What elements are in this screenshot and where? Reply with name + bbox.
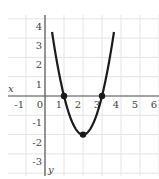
parabola-chart: -10123456 4321-1-2-3 x y [0,0,159,179]
x-tick-label: 2 [75,99,81,110]
y-tick-label: -1 [32,117,42,128]
y-tick-label: -2 [32,137,42,148]
x-tick-label: 0 [37,99,43,110]
x-tick-label: 4 [113,99,119,110]
x-tick-label: 5 [132,99,138,110]
x-axis-label: x [8,83,14,94]
x-tick-label: 1 [56,99,62,110]
y-tick-label: 4 [36,21,42,32]
x-tick-label: 6 [151,99,157,110]
vertex-point [80,131,86,137]
y-tick-label: -3 [32,156,42,167]
x-tick-labels: -10123456 [14,99,157,110]
y-tick-label: 1 [36,79,42,90]
y-tick-label: 2 [36,59,42,70]
y-tick-label: 3 [36,40,42,51]
x-tick-label: -1 [14,99,24,110]
y-tick-labels: 4321-1-2-3 [32,21,42,167]
y-axis-label: y [47,164,54,175]
root-1-point [61,93,67,99]
root-2-point [99,93,105,99]
